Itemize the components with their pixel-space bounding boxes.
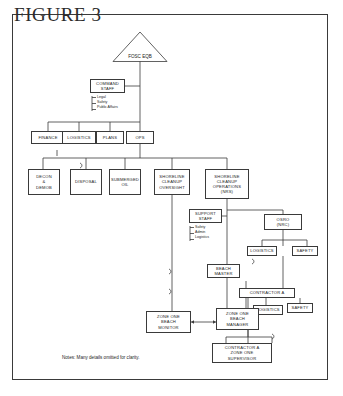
node-ops[interactable]: OPS <box>126 131 154 144</box>
node-fosc-eqb[interactable]: FOSC EQB <box>113 32 167 62</box>
node-plans[interactable]: PLANS <box>96 131 124 144</box>
safety-osro-label: SAFETY <box>296 248 313 253</box>
shoreline-operations-line1: SHORELINE <box>213 174 241 179</box>
decon-line3: DEMOB <box>36 185 52 190</box>
node-contractor-a[interactable]: CONTRACTOR A <box>239 288 295 298</box>
disposal-label: DISPOSAL <box>75 179 97 184</box>
fosc-line1: FOSC <box>128 54 141 59</box>
node-beach-master[interactable]: BEACH MASTER <box>207 264 240 278</box>
support-staff-bullets: Safety Admin Logistics <box>195 225 209 241</box>
node-safety-contractor[interactable]: SAFETY <box>287 303 313 313</box>
fosc-line2: EQB <box>142 54 152 59</box>
beach-master-line2: MASTER <box>214 271 232 276</box>
command-bullet-public-affairs: Public Affairs <box>97 105 118 110</box>
supervisor-line3: SUPERVISOR <box>225 356 260 361</box>
support-staff-line2: STAFF <box>195 216 216 221</box>
node-logistics-osro[interactable]: LOGISTICS <box>247 246 277 256</box>
safety-contractor-label: SAFETY <box>291 305 308 310</box>
shoreline-oversight-line3: OVERSIGHT <box>159 185 185 190</box>
logistics-osro-label: LOGISTICS <box>250 248 273 253</box>
node-zone-one-beach-monitor[interactable]: ZONE ONE BEACH MONITOR <box>146 311 191 333</box>
node-osro[interactable]: OSRO (NRC) <box>264 214 302 230</box>
figure-canvas: FIGURE 3 <box>0 0 343 396</box>
zone-manager-line3: MANAGER <box>226 322 249 327</box>
zone-monitor-line3: MONITOR <box>157 325 180 330</box>
logistics-top-label: LOGISTICS <box>67 135 90 140</box>
node-shoreline-cleanup-oversight[interactable]: SHORELINE CLEANUP OVERSIGHT <box>154 169 190 195</box>
fosc-label: FOSC EQB <box>128 54 152 62</box>
support-bullet-logistics: Logistics <box>195 235 209 240</box>
plans-label: PLANS <box>103 135 117 140</box>
finance-label: FINANCE <box>38 135 57 140</box>
node-safety-osro[interactable]: SAFETY <box>292 246 318 256</box>
command-staff-bullets: Legal Safety Public Affairs <box>97 95 118 111</box>
node-finance[interactable]: FINANCE <box>31 131 65 144</box>
node-shoreline-cleanup-operations[interactable]: SHORELINE CLEANUP OPERATIONS (NRS) <box>205 169 249 199</box>
node-logistics-top[interactable]: LOGISTICS <box>62 131 96 144</box>
node-command-staff[interactable]: COMMAND STAFF <box>90 79 125 93</box>
node-zone-one-beach-manager[interactable]: ZONE ONE BEACH MANAGER <box>216 308 259 330</box>
node-submerged-oil[interactable]: SUBMERGED OIL <box>109 169 141 195</box>
osro-line2: (NRC) <box>277 222 290 227</box>
node-support-staff[interactable]: SUPPORT STAFF <box>189 209 222 223</box>
node-decon-demob[interactable]: DECON & DEMOB <box>28 169 60 195</box>
node-contractor-a-zone-one-supervisor[interactable]: CONTRACTOR A ZONE ONE SUPERVISOR <box>212 343 272 363</box>
contractor-a-label: CONTRACTOR A <box>250 290 285 295</box>
shoreline-oversight-line2: CLEANUP <box>159 179 185 184</box>
ops-label: OPS <box>135 135 144 140</box>
figure-title: FIGURE 3 <box>14 4 102 26</box>
command-staff-line2: STAFF <box>96 86 119 91</box>
figure-notes: Notes: Many details omitted for clarity. <box>62 355 140 360</box>
shoreline-operations-line4: (NRS) <box>213 189 241 194</box>
submerged-oil-line2: OIL <box>111 182 139 187</box>
node-disposal[interactable]: DISPOSAL <box>70 169 102 195</box>
logistics-contractor-label: LOGISTICS <box>256 307 279 312</box>
